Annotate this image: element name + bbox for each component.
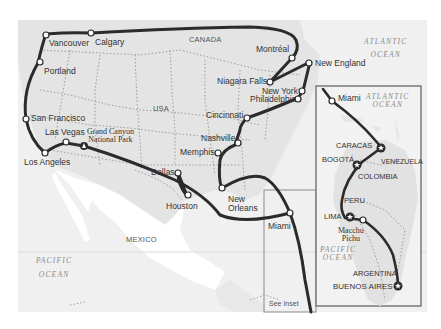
label-pacific-ocean: PACIFIC OCEAN: [36, 256, 72, 279]
label-dallas: Dallas: [151, 168, 175, 177]
label-miami: Miami: [268, 222, 291, 231]
stop-dallas: [175, 170, 181, 176]
label-line-2: National Park: [87, 136, 134, 144]
label-montreal: Montréal: [256, 45, 289, 54]
label-cincinnati: Cincinnati: [206, 111, 243, 120]
label-grand-canyon: Grand Canyon National Park: [87, 128, 134, 145]
stop-memphis: [215, 150, 221, 156]
stop-las-vegas: [63, 139, 69, 145]
label-atlantic-ocean: ATLANTIC OCEAN: [364, 37, 408, 59]
stop-new-orleans: [219, 185, 225, 191]
inset-label-lima: LIMA: [324, 213, 342, 221]
stop-montreal: [289, 55, 295, 61]
stop-new-england: [306, 60, 312, 66]
inset-label-miami: Miami: [338, 94, 361, 103]
label-new-england: New England: [315, 59, 366, 68]
stop-niagara-falls: [267, 79, 273, 85]
stop-cincinnati: [244, 115, 250, 121]
label-canada: CANADA: [189, 36, 221, 44]
label-philadelphia: Philadelphia: [250, 95, 296, 104]
stop-san-francisco: [23, 116, 29, 122]
label-line-2: Orleans: [228, 204, 258, 213]
stop-portland: [37, 59, 43, 65]
star-lima: [346, 213, 355, 222]
label-mexico: MEXICO: [126, 236, 157, 244]
inset-label-venezuela: VENEZUELA: [381, 158, 423, 165]
label-los-angeles: Los Angeles: [24, 158, 70, 167]
ocean-line-1: ATLANTIC: [364, 37, 408, 46]
ocean-line-1: PACIFIC: [36, 256, 72, 265]
inset-label-peru: PERU: [344, 197, 365, 205]
stop-calgary: [88, 30, 94, 36]
label-new-orleans: New Orleans: [228, 195, 258, 214]
label-portland: Portland: [44, 67, 76, 76]
inset-label-argentina: ARGENTINA: [353, 270, 397, 278]
star-caracas: [377, 144, 386, 153]
label-houston: Houston: [166, 202, 198, 211]
stop-miami: [287, 210, 293, 216]
label-vancouver: Vancouver: [49, 39, 89, 48]
label-niagara-falls: Niagara Falls: [217, 77, 267, 86]
inset-label-buenos-aires: BUENOS AIRES: [333, 283, 393, 291]
label-inset-atlantic-ocean: ATLANTIC OCEAN: [366, 93, 410, 108]
label-see-inset: See Inset: [269, 300, 299, 307]
label-inset-pacific-ocean: PACIFIC OCEAN: [320, 246, 356, 261]
ocean-line-2: OCEAN: [366, 101, 410, 109]
label-memphis: Memphis: [180, 148, 214, 157]
label-nashville: Nashville: [201, 134, 236, 143]
stop-los-angeles: [42, 150, 48, 156]
inset-label-bogota: BOGOTÁ: [322, 156, 354, 164]
stop-new-york: [299, 88, 305, 94]
stop-inset-miami: [329, 98, 335, 104]
stop-machu-picchu: [360, 217, 366, 223]
label-san-francisco: San Francisco: [31, 114, 85, 123]
ocean-line-2: OCEAN: [320, 254, 356, 262]
inset-label-machu-picchu: Macchu Pichu: [338, 227, 364, 244]
label-usa: USA: [153, 105, 169, 113]
label-calgary: Calgary: [95, 38, 124, 47]
label-line-2: Pichu: [338, 235, 364, 243]
ocean-line-2: OCEAN: [364, 50, 408, 59]
label-las-vegas: Las Vegas: [45, 128, 85, 137]
inset-label-colombia: COLOMBIA: [358, 173, 398, 181]
inset-label-caracas: CARACAS: [336, 142, 372, 150]
star-buenos-aires: [394, 282, 403, 291]
stop-houston: [185, 192, 191, 198]
ocean-line-2: OCEAN: [36, 270, 72, 279]
